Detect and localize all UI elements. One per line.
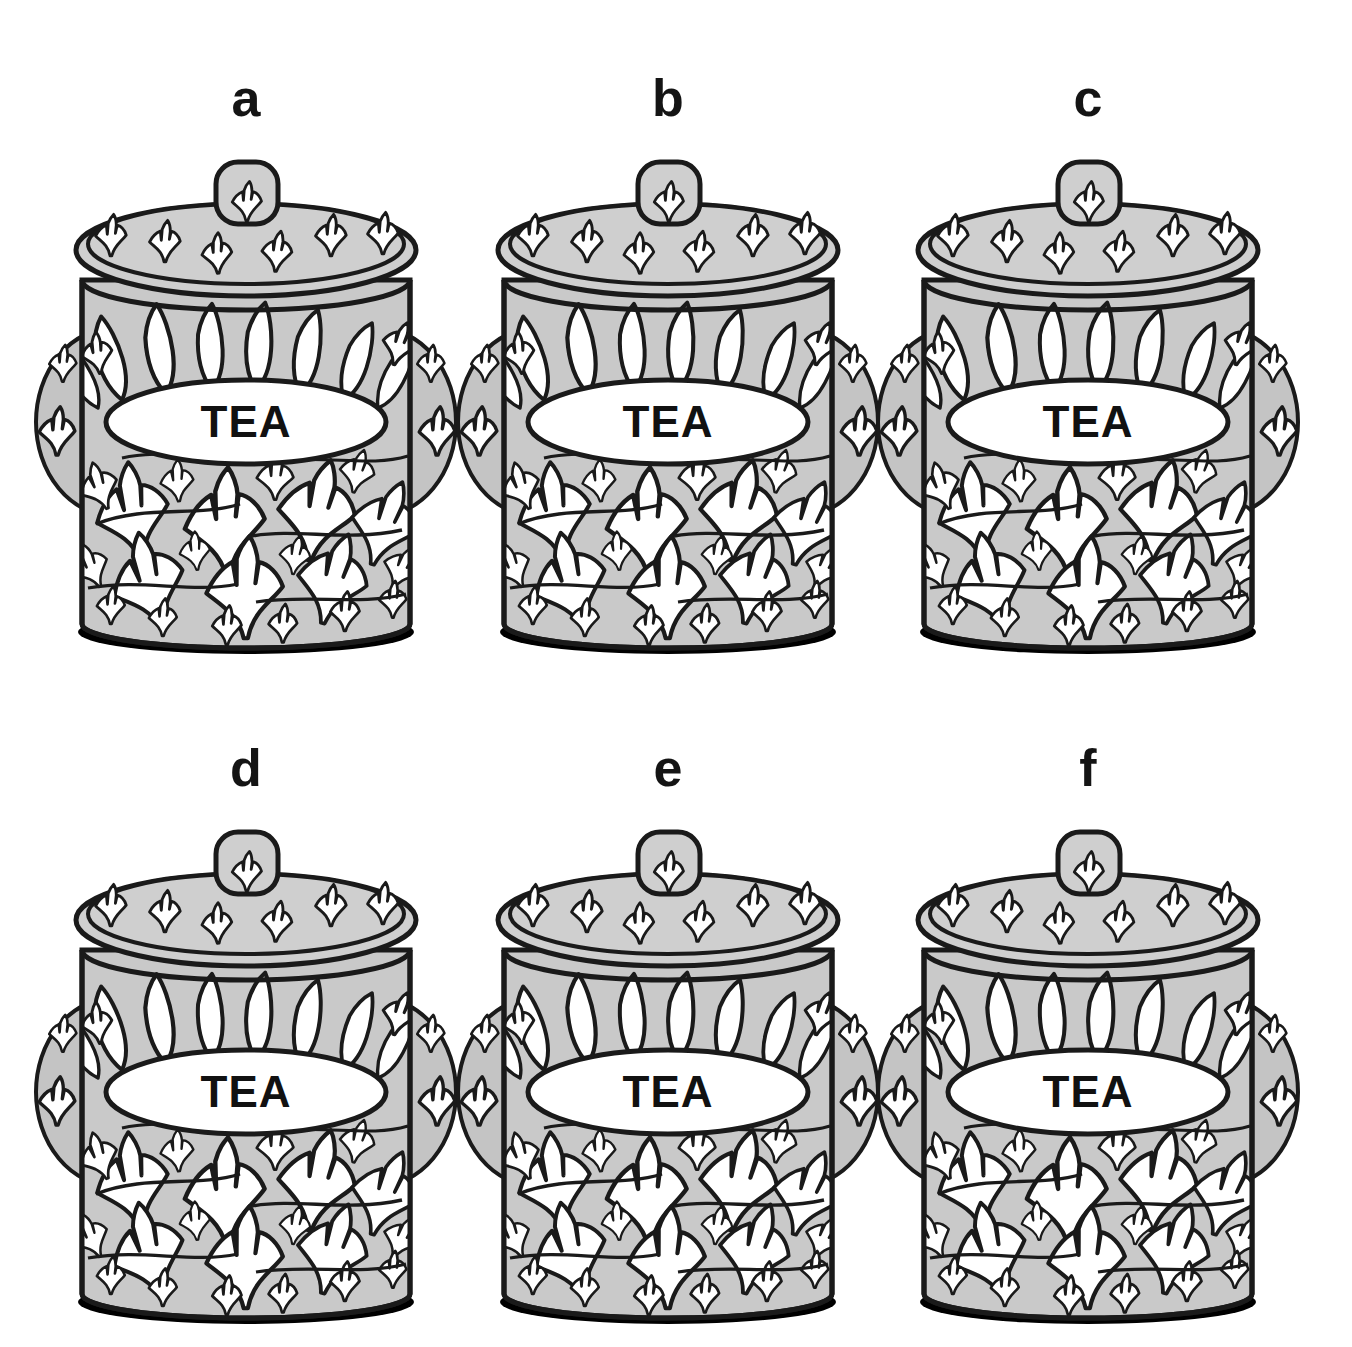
- panel-c[interactable]: c TEA: [868, 72, 1308, 672]
- panel-label-e: e: [448, 742, 888, 794]
- panel-label-f: f: [868, 742, 1308, 794]
- panel-d[interactable]: d TEA: [26, 742, 466, 1342]
- panel-label-b: b: [448, 72, 888, 124]
- panel-b[interactable]: b TEA: [448, 72, 888, 672]
- canister-illustration: [868, 802, 1308, 1342]
- panel-e[interactable]: e TEA: [448, 742, 888, 1342]
- tea-canister-figure: a TEA b TEA c TEA d: [0, 0, 1352, 1347]
- canister-illustration: [26, 802, 466, 1342]
- canister-illustration: [868, 132, 1308, 672]
- canister-c[interactable]: TEA: [868, 132, 1308, 672]
- panel-f[interactable]: f TEA: [868, 742, 1308, 1342]
- panel-a[interactable]: a TEA: [26, 72, 466, 672]
- canister-f[interactable]: TEA: [868, 802, 1308, 1342]
- canister-illustration: [26, 132, 466, 672]
- canister-d[interactable]: TEA: [26, 802, 466, 1342]
- canister-b[interactable]: TEA: [448, 132, 888, 672]
- canister-illustration: [448, 802, 888, 1342]
- canister-illustration: [448, 132, 888, 672]
- canister-a[interactable]: TEA: [26, 132, 466, 672]
- panel-label-c: c: [868, 72, 1308, 124]
- panel-label-a: a: [26, 72, 466, 124]
- panel-label-d: d: [26, 742, 466, 794]
- canister-e[interactable]: TEA: [448, 802, 888, 1342]
